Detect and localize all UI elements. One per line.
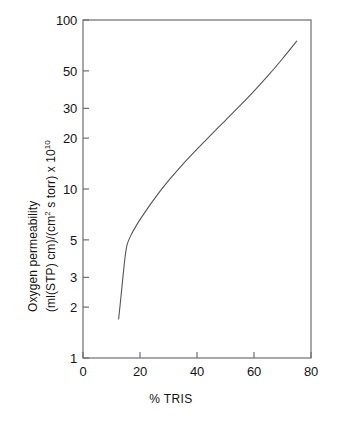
y-axis-title-line2: (ml(STP) cm)/(cm2 s torr) x 1010	[43, 140, 58, 312]
y-axis-title-sup-area: 2	[43, 211, 52, 216]
y-tick-label: 50	[43, 65, 77, 78]
y-axis-title-units: (ml(STP) cm)/(cm	[44, 216, 58, 312]
plot-frame	[83, 20, 311, 358]
x-tick-label: 60	[237, 365, 271, 378]
permeability-curve	[119, 41, 297, 319]
oxygen-permeability-chart: 123510203050100 020406080 Oxygen permeab…	[0, 0, 342, 422]
x-axis-ticks	[83, 352, 311, 358]
y-axis-title-units-mid: s torr) x 10	[44, 149, 58, 211]
y-tick-label: 100	[43, 14, 77, 27]
x-tick-label: 40	[180, 365, 214, 378]
x-tick-label: 80	[294, 365, 328, 378]
x-tick-label: 0	[66, 365, 100, 378]
y-axis-title-sup-exponent: 10	[43, 140, 52, 149]
data-series-group	[119, 41, 297, 319]
y-axis-title-line1: Oxygen permeability	[26, 201, 40, 312]
axes-frame	[83, 20, 311, 358]
y-tick-label: 1	[43, 352, 77, 365]
x-tick-label: 20	[123, 365, 157, 378]
y-tick-label: 30	[43, 102, 77, 115]
y-axis-ticks	[83, 20, 89, 358]
x-axis-title: % TRIS	[0, 392, 342, 406]
